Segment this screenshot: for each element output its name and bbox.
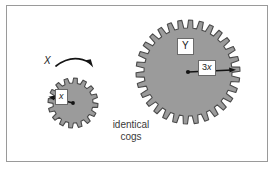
large-gear-center-dot	[186, 70, 190, 74]
label-large-radius-variable: x	[207, 62, 212, 72]
rotation-arrow-arc	[56, 59, 90, 66]
label-gear-x: X	[44, 56, 51, 66]
gear-drawing-canvas	[0, 0, 275, 169]
label-large-radius: 3x	[198, 60, 216, 76]
gear-diagram-figure: X x Y 3x identical cogs	[0, 0, 275, 169]
caption-line-1: identical	[92, 119, 170, 131]
rotation-arrow-head	[86, 59, 94, 67]
caption-line-2: cogs	[92, 131, 170, 143]
label-gear-y: Y	[177, 38, 194, 55]
rotation-arrow	[56, 59, 93, 68]
label-small-radius: x	[55, 89, 68, 105]
caption-identical-cogs: identical cogs	[92, 119, 170, 143]
small-gear-center-dot	[71, 101, 75, 105]
